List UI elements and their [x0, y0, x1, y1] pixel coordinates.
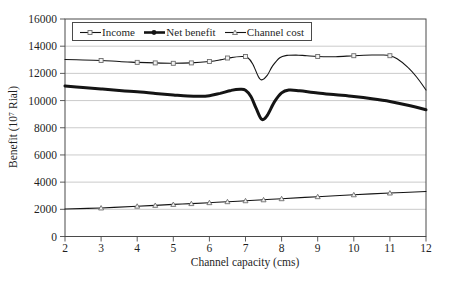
legend-sample-marker-icon [232, 30, 237, 34]
marker-channel-cost [99, 206, 104, 210]
y-tick-label: 12000 [28, 67, 57, 79]
legend-label-income: Income [102, 26, 135, 38]
marker-income [171, 61, 175, 65]
marker-channel-cost [135, 204, 140, 208]
legend-circle-marker-icon [144, 27, 165, 36]
chart-canvas: 2345678910111202000400060008000100001200… [0, 0, 449, 285]
y-tick-label: 4000 [34, 176, 57, 188]
x-tick-label: 3 [98, 242, 104, 254]
legend-sample-marker-icon [88, 31, 92, 35]
legend-square-marker-icon [80, 27, 101, 36]
series-path-net-benefit [65, 86, 426, 120]
legend-item-income: Income [80, 26, 135, 38]
y-tick-label: 6000 [34, 149, 57, 161]
marker-channel-cost [279, 196, 284, 200]
x-tick-label: 8 [279, 242, 285, 254]
legend-sample-glyph [80, 28, 101, 37]
x-tick-label: 7 [243, 242, 249, 254]
marker-income [99, 58, 103, 62]
marker-income [244, 55, 248, 59]
x-tick-label: 2 [62, 242, 68, 254]
legend-sample-marker-icon [152, 30, 157, 35]
chart-legend: Income Net benefit Channel cost [72, 22, 312, 41]
legend-triangle-marker-icon [225, 27, 246, 36]
marker-channel-cost [261, 197, 266, 201]
x-tick-label: 9 [315, 242, 321, 254]
marker-channel-cost [153, 203, 158, 207]
marker-income [388, 54, 392, 58]
marker-income [189, 61, 193, 65]
marker-income [352, 54, 356, 58]
legend-label-net-benefit: Net benefit [166, 26, 215, 38]
marker-income [207, 60, 211, 64]
marker-channel-cost [243, 198, 248, 202]
y-tick-label: 0 [51, 231, 57, 243]
line-chart-figure: 2345678910111202000400060008000100001200… [0, 0, 449, 285]
x-tick-label: 10 [348, 242, 360, 254]
x-tick-label: 11 [384, 242, 395, 254]
marker-channel-cost [207, 200, 212, 204]
y-tick-label: 16000 [28, 13, 57, 25]
marker-income [153, 61, 157, 65]
marker-income [135, 60, 139, 64]
y-axis-title: Benefit (10⁷ Rial) [7, 86, 19, 168]
marker-channel-cost [387, 191, 392, 195]
marker-income [316, 55, 320, 59]
y-tick-label: 8000 [34, 122, 57, 134]
legend-sample-glyph [144, 28, 165, 37]
y-tick-label: 2000 [34, 203, 57, 215]
marker-channel-cost [171, 202, 176, 206]
series-path-income [65, 55, 426, 90]
x-axis-title: Channel capacity (cms) [191, 256, 300, 268]
y-tick-label: 14000 [28, 40, 57, 52]
marker-income [225, 56, 229, 60]
marker-channel-cost [225, 199, 230, 203]
x-tick-label: 5 [170, 242, 176, 254]
x-tick-label: 12 [420, 242, 432, 254]
legend-item-net-benefit: Net benefit [144, 26, 215, 38]
marker-channel-cost [189, 201, 194, 205]
x-tick-label: 6 [207, 242, 213, 254]
legend-label-channel-cost: Channel cost [247, 26, 304, 38]
y-tick-label: 10000 [28, 95, 57, 107]
marker-channel-cost [315, 194, 320, 198]
legend-item-channel-cost: Channel cost [225, 26, 304, 38]
marker-channel-cost [351, 192, 356, 196]
x-tick-label: 4 [134, 242, 140, 254]
legend-sample-glyph [225, 28, 246, 37]
